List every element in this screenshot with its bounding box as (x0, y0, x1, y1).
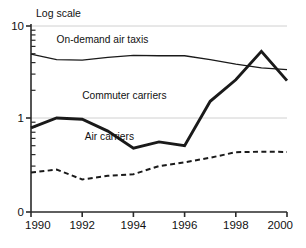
chart-container: 199019921994199619982000 1010 On-demand … (0, 0, 306, 248)
y-tick-label-0: 0 (18, 206, 24, 218)
x-tick-label-2000: 2000 (267, 219, 293, 231)
y-tick-label-10: 10 (11, 20, 24, 32)
x-tick-label-1992: 1992 (69, 219, 95, 231)
x-tick-label-1996: 1996 (172, 219, 198, 231)
series-label-0: On-demand air taxis (57, 34, 149, 45)
line-chart: 199019921994199619982000 1010 On-demand … (0, 0, 306, 248)
log-scale-note: Log scale (36, 7, 81, 19)
x-tick-label-1994: 1994 (121, 219, 147, 231)
x-tick-label-1990: 1990 (25, 219, 51, 231)
y-tick-label-1: 1 (18, 112, 24, 124)
chart-background (0, 0, 306, 248)
x-tick-label-1998: 1998 (223, 219, 249, 231)
series-label-1: Commuter carriers (82, 90, 166, 101)
series-label-2: Air carriers (85, 131, 134, 142)
